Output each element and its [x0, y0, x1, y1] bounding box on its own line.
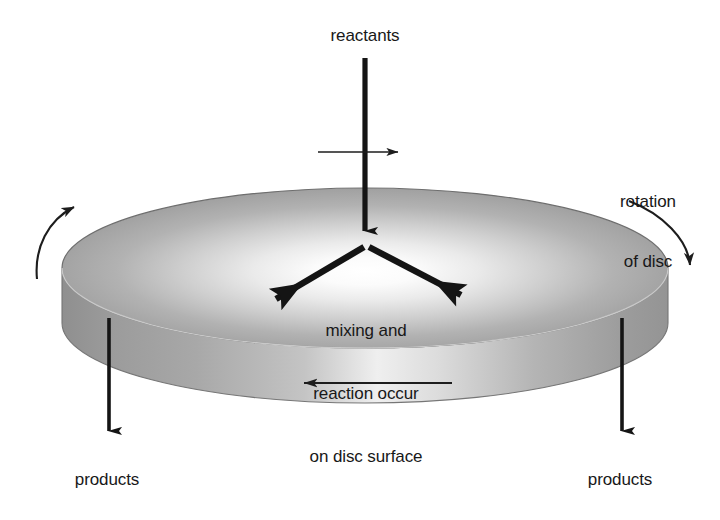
label-rotation-line1: rotation	[592, 192, 704, 212]
label-products-right: products	[555, 470, 685, 490]
label-rotation-line2: of disc	[592, 252, 704, 272]
label-surface-line1: mixing and	[278, 320, 454, 341]
label-rotation-of-disc: rotation of disc	[592, 152, 704, 312]
label-surface-line3: on disc surface	[278, 446, 454, 467]
spinning-disc-reactor-diagram: reactants rotation of disc mixing and re…	[0, 0, 720, 520]
label-reactants: reactants	[290, 26, 440, 46]
label-products-left: products	[42, 470, 172, 490]
label-surface-line2: reaction occur	[278, 383, 454, 404]
label-disc-surface-reaction: mixing and reaction occur on disc surfac…	[278, 278, 454, 509]
